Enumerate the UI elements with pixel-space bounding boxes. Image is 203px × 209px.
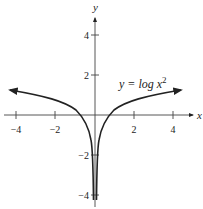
y-tick-label: −4 (78, 190, 89, 201)
y-tick-label: 2 (84, 70, 89, 81)
curve-left (10, 90, 94, 200)
x-tick-label: 2 (132, 124, 137, 135)
y-tick-label: 4 (84, 30, 89, 41)
x-tick-label: 4 (171, 124, 176, 135)
x-tick-label: −4 (11, 124, 22, 135)
equation-label: y = log x2 (118, 75, 167, 91)
graph-canvas: −4 −2 2 4 4 2 −2 −4 x y y = log x2 (0, 0, 203, 209)
y-axis-label: y (92, 1, 98, 13)
x-axis-label: x (196, 109, 202, 121)
x-tick-label: −2 (50, 124, 61, 135)
y-tick-label: −2 (78, 150, 89, 161)
curve-right (97, 90, 182, 200)
